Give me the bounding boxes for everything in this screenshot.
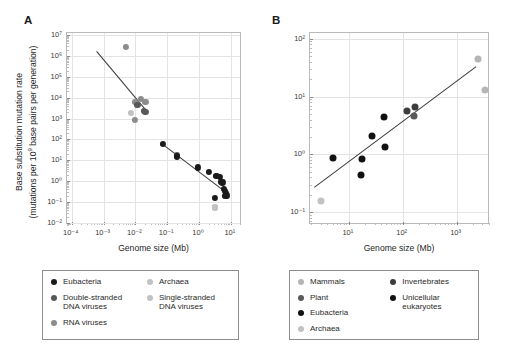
legend-b-label: Mammals [310,277,345,287]
panel-b-x-tick-label: 10¹ [342,228,353,237]
panel-a-y-minor-tick [67,125,69,126]
panel-a-y-minor-tick [67,81,69,82]
panel-a-y-tick-label: 10⁶ [42,50,62,59]
panel-a-y-minor-tick [67,203,69,204]
panel-a-y-minor-tick [67,224,69,225]
panel-a-y-minor-tick [67,133,69,134]
panel-a-data-point [142,99,148,105]
panel-label-a: A [24,14,33,26]
panel-b-y-minor-tick [310,157,312,158]
panel-label-b: B [272,14,281,26]
legend-b-item[interactable]: Unicellular eukaryotes [390,293,470,312]
panel-a-y-tick-label: 10⁻¹ [42,197,62,206]
legend-b-item[interactable]: Mammals [298,277,384,287]
panel-a-y-tick [67,223,70,224]
panel-a-y-minor-tick [67,102,69,103]
panel-a-y-gridline [67,56,240,57]
panel-b-x-axis-title: Genome size (Mb) [309,243,489,253]
panel-a-y-minor-tick [67,186,69,187]
legend-a-column: ArchaeaSingle-stranded DNA viruses [147,277,230,333]
panel-a-y-minor-tick [67,204,69,205]
panel-a-y-minor-tick [67,36,69,37]
panel-a-y-minor-tick [67,40,69,41]
legend-a-item[interactable]: Single-stranded DNA viruses [147,293,230,312]
panel-a-y-minor-tick [67,165,69,166]
panel-b-x-minor-tick [375,223,376,225]
legend-a-item[interactable]: RNA viruses [51,318,141,328]
panel-b-y-minor-tick [310,163,312,164]
panel-a-y-tick [67,181,70,182]
panel-a-x-gridline [72,33,73,223]
legend-b-item[interactable]: Invertebrates [390,277,470,287]
panel-b-y-tick-label: 10⁰ [285,149,305,158]
panel-a-y-tick [67,119,70,120]
legend-b-marker-icon [298,326,304,332]
panel-a-y-gridline [67,35,240,36]
panel-a-y-gridline [67,202,240,203]
panel-a-x-gridline [135,33,136,223]
panel-b-x-gridline [457,33,458,223]
panel-b-x-minor-tick [344,223,345,225]
legend-a-label: RNA viruses [63,318,107,328]
panel-a-y-minor-tick [67,184,69,185]
panel-a-y-minor-tick [67,205,69,206]
panel-b-x-minor-tick [327,223,328,225]
panel-a-y-minor-tick [67,58,69,59]
legend-a-item[interactable]: Archaea [147,277,230,287]
panel-b-y-minor-tick [310,62,312,63]
panel-b-x-minor-tick [473,223,474,225]
panel-a-y-minor-tick [67,41,69,42]
panel-b-x-minor-tick [386,223,387,225]
panel-b-y-minor-tick [310,56,312,57]
panel-a-y-tick [67,35,70,36]
panel-b-y-gridline [310,154,488,155]
panel-a-y-minor-tick [67,100,69,101]
legend-a-item[interactable]: Double-stranded DNA viruses [51,293,141,312]
panel-a-y-minor-tick [67,169,69,170]
panel-b-data-point [382,143,389,150]
panel-a-y-minor-tick [67,183,69,184]
panel-a-data-point [142,109,148,115]
legend-b-label: Invertebrates [402,277,449,287]
panel-a-y-minor-tick [67,80,69,81]
panel-b-data-point [481,87,488,94]
panel-a-y-minor-tick [67,43,69,44]
panel-b-y-minor-tick [310,185,312,186]
panel-b-y-minor-tick [310,218,312,219]
panel-b-y-minor-tick [310,99,312,100]
panel-a-x-gridline [199,33,200,223]
panel-b-x-minor-tick [391,223,392,225]
panel-b-x-minor-tick [337,223,338,225]
panel-a-y-gridline [67,77,240,78]
panel-b-x-minor-tick [435,223,436,225]
legend-b-marker-icon [298,295,304,301]
panel-a-y-gridline [67,98,240,99]
panel-b-x-tick [349,222,350,225]
panel-a-data-point [174,153,180,159]
legend-a-item[interactable]: Eubacteria [51,277,141,287]
panel-a-y-tick-label: 10⁰ [42,176,62,185]
panel-b-data-point [475,56,482,63]
legend-a-marker-icon [51,320,57,326]
panel-a-y-tick [67,77,70,78]
legend-b-item[interactable]: Plant [298,293,384,303]
panel-b-x-tick-label: 10² [396,228,407,237]
panel-a-y-tick-label: 10³ [42,113,62,122]
legend-b-column: MammalsPlantEubacteriaArchaea [298,277,384,333]
panel-b-y-tick [310,39,313,40]
panel-a-y-tick [67,160,70,161]
legend-b-item[interactable]: Archaea [298,324,384,334]
panel-a-y-tick-label: 10¹ [42,155,62,164]
panel-b-x-minor-tick [489,223,490,225]
legend-b-item[interactable]: Eubacteria [298,308,384,318]
panel-a-data-point [123,44,129,50]
panel-b-x-minor-tick [394,223,395,225]
panel-b-y-minor-tick [310,114,312,115]
panel-a-data-point [222,193,228,199]
panel-b-data-point [403,108,410,115]
legend-b-marker-icon [298,310,304,316]
panel-a-y-minor-tick [67,57,69,58]
panel-a-y-minor-tick [67,150,69,151]
panel-b-data-point [369,132,376,139]
panel-a-y-gridline [67,160,240,161]
